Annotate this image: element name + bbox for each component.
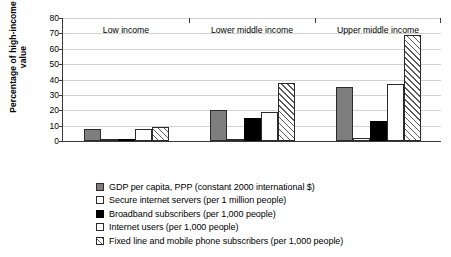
category-separator: [440, 18, 441, 23]
bar: [336, 87, 353, 141]
legend-swatch: [96, 196, 104, 204]
y-axis-tick-label: 20: [37, 105, 59, 115]
category-separator: [315, 18, 316, 23]
bar: [278, 83, 295, 141]
y-axis-tick-label: 0: [37, 136, 59, 146]
bar: [244, 118, 261, 141]
y-axis-tick-label: 10: [37, 121, 59, 131]
legend-label: Fixed line and mobile phone subscribers …: [109, 236, 343, 246]
plot-area: 01020304050607080 Low incomeLower middle…: [62, 18, 441, 142]
bar: [152, 127, 169, 141]
x-axis-category-label: Lower middle income: [189, 25, 315, 35]
legend-label: Secure internet servers (per 1 million p…: [109, 195, 286, 205]
y-axis-tick-mark: [59, 141, 63, 142]
bar: [353, 138, 370, 141]
chart-legend: GDP per capita, PPP (constant 2000 inter…: [96, 180, 436, 248]
legend-label: Broadband subscribers (per 1,000 people): [109, 209, 276, 219]
bar: [404, 35, 421, 141]
legend-swatch: [96, 223, 104, 231]
legend-label: GDP per capita, PPP (constant 2000 inter…: [109, 182, 315, 192]
legend-label: Internet users (per 1,000 people): [109, 222, 238, 232]
bar: [118, 139, 135, 141]
y-axis-tick-label: 80: [37, 13, 59, 23]
bar: [387, 84, 404, 141]
bar: [135, 129, 152, 141]
legend-swatch: [96, 237, 104, 245]
legend-swatch: [96, 183, 104, 191]
legend-item: Secure internet servers (per 1 million p…: [96, 194, 436, 208]
legend-item: Fixed line and mobile phone subscribers …: [96, 234, 436, 248]
chart-screenshot: Percentage of high-income value 01020304…: [0, 0, 451, 257]
legend-item: Broadband subscribers (per 1,000 people): [96, 207, 436, 221]
bar-group: [189, 18, 315, 141]
y-axis-title: Percentage of high-income value: [8, 0, 28, 122]
y-axis-tick-label: 70: [37, 28, 59, 38]
x-axis-category-label: Low income: [63, 25, 189, 35]
y-axis-tick-label: 40: [37, 75, 59, 85]
legend-item: Internet users (per 1,000 people): [96, 221, 436, 235]
bar-group: [315, 18, 441, 141]
y-axis-tick-label: 60: [37, 44, 59, 54]
bar: [227, 139, 244, 141]
bar: [210, 110, 227, 141]
y-axis-tick-label: 50: [37, 59, 59, 69]
bar-group: [63, 18, 189, 141]
bar: [101, 139, 118, 141]
x-axis-category-label: Upper middle income: [315, 25, 441, 35]
legend-swatch: [96, 210, 104, 218]
bar: [84, 129, 101, 141]
bar-chart: Percentage of high-income value 01020304…: [0, 0, 451, 170]
y-axis-tick-label: 30: [37, 90, 59, 100]
category-separator: [189, 18, 190, 23]
bar: [261, 112, 278, 141]
legend-item: GDP per capita, PPP (constant 2000 inter…: [96, 180, 436, 194]
bar: [370, 121, 387, 141]
